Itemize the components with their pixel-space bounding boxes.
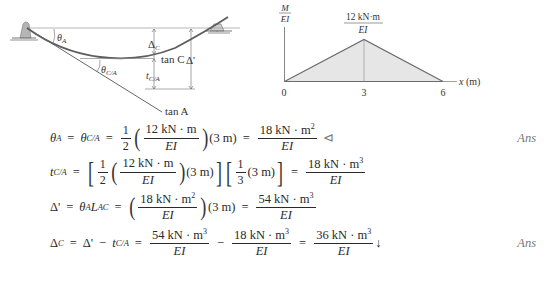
delta-c-label: ΔC (148, 38, 160, 52)
tan-a-label: tan A (165, 105, 189, 117)
equation-theta-a: θA = θC/A = 12 ( 12 kN · mEI ) (3 m) = 1… (50, 121, 334, 155)
peak-label-den: EI (358, 25, 369, 35)
delta-prime-label: Δ' (186, 54, 195, 66)
tan-c-label: tan C (161, 53, 185, 65)
clockwise-slope-icon: ⊲ (323, 130, 334, 146)
tick-3: 3 (362, 87, 367, 98)
t-ca-label: tC/A (146, 70, 160, 83)
equation-t-ca: tC/A = [ 12 ( 12 kN · mEI ) (3 m) ][ 13 … (50, 155, 367, 189)
answer-label-1: Ans (517, 131, 536, 146)
x-axis-label: x (m) (458, 76, 480, 88)
y-axis-label-num: M (280, 3, 289, 13)
deflection-diagram: θA ΔC tan C θC/A tC/A Δ' tan A (0, 0, 260, 125)
equation-delta-prime: Δ' = θA LAC = ( 18 kN · m2EI ) (3 m) = 5… (50, 190, 318, 224)
tick-6: 6 (441, 87, 446, 98)
down-arrow-icon: ↓ (375, 236, 381, 251)
theta-ca-label: θC/A (101, 64, 118, 77)
pin-support-icon (10, 22, 38, 40)
y-axis-label-den: EI (280, 14, 290, 24)
moment-diagram: M EI 12 kN·m EI x (m) 0 3 6 (260, 0, 546, 100)
answer-label-2: Ans (517, 236, 536, 251)
theta-a-label: θA (57, 32, 67, 45)
equation-delta-c: ΔC = Δ' − tC/A = 54 kN · m3EI − 18 kN · … (50, 226, 381, 260)
tick-0: 0 (282, 87, 287, 98)
peak-label-num: 12 kN·m (346, 12, 381, 22)
